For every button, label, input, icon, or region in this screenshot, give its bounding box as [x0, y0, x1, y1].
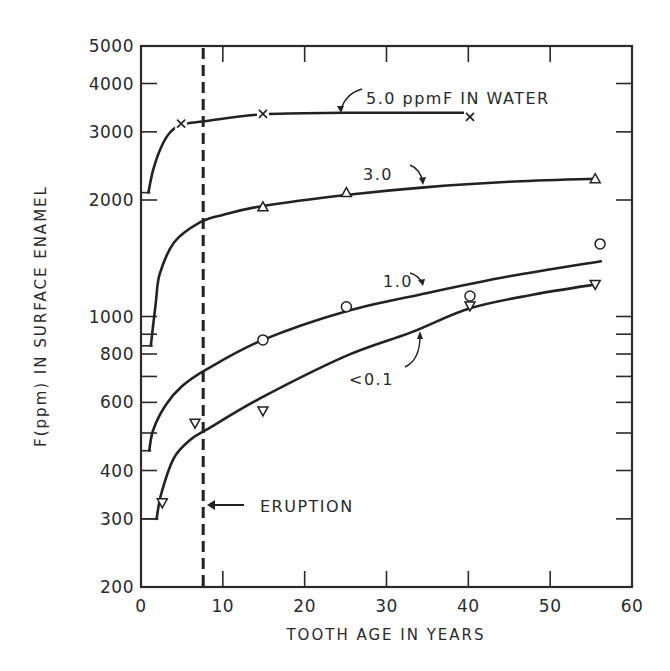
triangle-down-marker-icon: [190, 419, 200, 428]
circle-marker-icon: [258, 335, 268, 345]
y-tick-label: 2000: [89, 190, 134, 210]
x-tick-label: 20: [293, 596, 316, 616]
fluoride-enamel-chart: 0102030405060200300400600800100020003000…: [0, 0, 670, 671]
series-curve-0: [148, 113, 468, 193]
y-axis-title: F(ppm) IN SURFACE ENAMEL: [32, 185, 50, 447]
y-tick-label: 200: [100, 577, 134, 597]
series-label-3ppm: 3.0: [363, 165, 393, 184]
x-tick-label: 30: [375, 596, 398, 616]
y-tick-label: 3000: [89, 122, 134, 142]
series-curve-1: [151, 179, 595, 346]
y-tick-label: 4000: [89, 74, 134, 94]
y-tick-label: 600: [100, 392, 134, 412]
circle-marker-icon: [595, 239, 605, 249]
eruption-label: ERUPTION: [260, 497, 354, 516]
x-tick-label: 60: [621, 596, 644, 616]
arrow-icon: [341, 89, 362, 110]
x-tick-label: 10: [212, 596, 235, 616]
x-tick-label: 50: [539, 596, 562, 616]
circle-marker-icon: [465, 291, 475, 301]
y-tick-label: 5000: [89, 36, 134, 56]
y-tick-label: 300: [100, 509, 134, 529]
y-tick-label: 800: [100, 344, 134, 364]
tick-labels: 0102030405060200300400600800100020003000…: [89, 36, 644, 616]
circle-marker-icon: [341, 302, 351, 312]
series-label-lt01ppm: <0.1: [349, 370, 394, 389]
y-tick-label: 400: [100, 461, 134, 481]
chart-canvas: 0102030405060200300400600800100020003000…: [0, 0, 670, 671]
series-label-1ppm: 1.0: [383, 272, 413, 291]
x-tick-label: 0: [135, 596, 146, 616]
arrow-icon: [405, 336, 420, 367]
y-tick-label: 1000: [89, 307, 134, 327]
x-axis-title: TOOTH AGE IN YEARS: [285, 626, 485, 644]
series-label-5ppm: 5.0 ppmF IN WATER: [366, 89, 550, 108]
arrowhead-icon: [419, 177, 426, 185]
arrowhead-icon: [417, 331, 423, 339]
series-curve-3: [157, 285, 596, 519]
x-tick-label: 40: [457, 596, 480, 616]
triangle-down-marker-icon: [258, 407, 268, 416]
triangle-up-marker-icon: [341, 188, 351, 197]
arrowhead-icon: [207, 500, 215, 510]
arrowhead-icon: [418, 279, 425, 286]
